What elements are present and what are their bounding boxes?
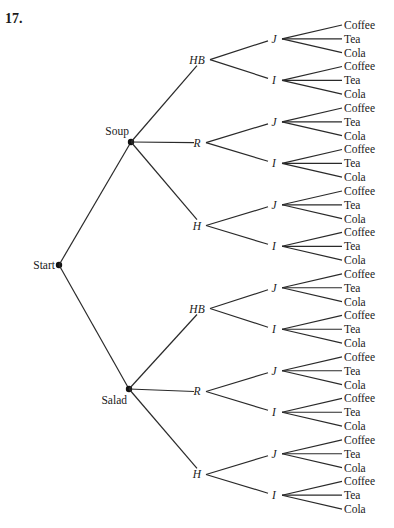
option-i-label: I	[271, 157, 277, 169]
branch-line	[210, 60, 268, 79]
leaf-cola-label: Cola	[344, 130, 366, 142]
branch-line	[282, 329, 342, 343]
branch-line	[282, 80, 342, 94]
branch-line	[282, 25, 342, 39]
start-label: Start	[33, 259, 56, 271]
branch-line	[282, 315, 342, 329]
leaf-tea-label: Tea	[344, 240, 360, 252]
branch-line	[282, 149, 342, 163]
leaf-coffee-label: Coffee	[344, 475, 375, 487]
leaf-coffee-label: Coffee	[344, 392, 375, 404]
branch-line	[210, 290, 268, 309]
branch-line	[282, 398, 342, 412]
branch-line	[282, 191, 342, 205]
branch-line	[282, 246, 342, 260]
branch-line	[282, 412, 342, 426]
branch-line	[282, 39, 342, 53]
leaf-coffee-label: Coffee	[344, 351, 375, 363]
branch-line	[282, 288, 342, 302]
branch-line	[282, 371, 342, 385]
branch-line	[59, 265, 129, 389]
leaf-cola-label: Cola	[344, 379, 366, 391]
leaf-coffee-label: Coffee	[344, 143, 375, 155]
branch-line	[131, 142, 194, 143]
branch-line	[282, 163, 342, 177]
option-h-label: H	[192, 220, 202, 232]
leaf-tea-label: Tea	[344, 406, 360, 418]
leaf-coffee-label: Coffee	[344, 268, 375, 280]
leaf-coffee-label: Coffee	[344, 102, 375, 114]
leaf-tea-label: Tea	[344, 116, 360, 128]
branch-line	[282, 481, 342, 495]
branch-line	[59, 142, 131, 265]
leaf-cola-label: Cola	[344, 254, 366, 266]
leaf-cola-label: Cola	[344, 420, 366, 432]
option-j-label: J	[271, 199, 277, 211]
leaf-cola-label: Cola	[344, 88, 366, 100]
leaf-cola-label: Cola	[344, 462, 366, 474]
option-hb-label: HB	[188, 54, 204, 66]
branch-line	[131, 66, 197, 142]
branch-line	[206, 391, 268, 410]
option-i-label: I	[271, 74, 277, 86]
leaf-tea-label: Tea	[344, 199, 360, 211]
option-j-label: J	[271, 282, 277, 294]
leaf-coffee-label: Coffee	[344, 185, 375, 197]
branch-line	[282, 440, 342, 454]
branch-line	[206, 226, 268, 245]
option-h-label: H	[192, 468, 202, 480]
salad-label: Salad	[101, 394, 127, 406]
leaf-tea-label: Tea	[344, 74, 360, 86]
branch-line	[206, 143, 268, 162]
branch-line	[129, 315, 197, 389]
option-i-label: I	[271, 323, 277, 335]
leaf-cola-label: Cola	[344, 213, 366, 225]
option-r-label: R	[192, 385, 200, 397]
option-i-label: I	[271, 489, 277, 501]
leaf-tea-label: Tea	[344, 323, 360, 335]
branch-line	[206, 474, 268, 493]
branch-line	[206, 373, 268, 392]
branch-line	[282, 205, 342, 219]
branch-line	[282, 108, 342, 122]
branch-line	[282, 232, 342, 246]
leaf-tea-label: Tea	[344, 33, 360, 45]
branch-line	[210, 41, 268, 60]
branch-line	[206, 124, 268, 143]
leaf-tea-label: Tea	[344, 489, 360, 501]
leaf-cola-label: Cola	[344, 171, 366, 183]
leaf-tea-label: Tea	[344, 282, 360, 294]
branch-line	[129, 389, 197, 468]
option-j-label: J	[271, 116, 277, 128]
leaf-coffee-label: Coffee	[344, 226, 375, 238]
leaf-tea-label: Tea	[344, 157, 360, 169]
branch-line	[129, 389, 194, 391]
soup-label: Soup	[105, 125, 129, 138]
leaf-coffee-label: Coffee	[344, 60, 375, 72]
option-hb-label: HB	[188, 303, 204, 315]
branch-line	[282, 454, 342, 468]
leaf-cola-label: Cola	[344, 47, 366, 59]
option-j-label: J	[271, 33, 277, 45]
leaf-coffee-label: Coffee	[344, 19, 375, 31]
branch-line	[282, 122, 342, 136]
branch-line	[206, 456, 268, 475]
leaf-cola-label: Cola	[344, 337, 366, 349]
tree-diagram: StartSoupHBJCoffeeTeaColaICoffeeTeaColaR…	[0, 0, 394, 528]
option-i-label: I	[271, 240, 277, 252]
branch-line	[206, 207, 268, 226]
branch-line	[282, 495, 342, 509]
leaf-coffee-label: Coffee	[344, 309, 375, 321]
leaf-tea-label: Tea	[344, 448, 360, 460]
branch-line	[282, 66, 342, 80]
branch-line	[210, 309, 268, 328]
branch-line	[131, 142, 197, 220]
leaf-tea-label: Tea	[344, 365, 360, 377]
branch-line	[282, 274, 342, 288]
option-i-label: I	[271, 406, 277, 418]
branch-line	[282, 357, 342, 371]
option-j-label: J	[271, 365, 277, 377]
leaf-cola-label: Cola	[344, 296, 366, 308]
option-r-label: R	[192, 137, 200, 149]
leaf-cola-label: Cola	[344, 503, 366, 515]
